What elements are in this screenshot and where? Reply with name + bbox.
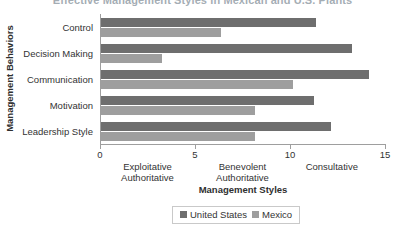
plot-area (100, 14, 386, 144)
bar (101, 122, 331, 131)
legend-label: Mexico (262, 209, 292, 220)
legend-item: Mexico (252, 209, 292, 220)
x-axis-tick-label: 5 (192, 149, 197, 160)
y-axis-label: Control (14, 14, 97, 40)
y-axis-label: Communication (14, 66, 97, 92)
x-axis-tick-label: 0 (97, 149, 102, 160)
x-axis-style-label-line1: Exploitative (121, 161, 174, 172)
x-axis-tick-label: 15 (380, 149, 391, 160)
y-axis-label: Decision Making (14, 40, 97, 66)
bar-group (101, 14, 386, 40)
bar (101, 70, 369, 79)
bar-group (101, 92, 386, 118)
x-axis-style-label-line2: Authoritative (216, 172, 269, 183)
bar (101, 18, 316, 27)
x-axis-style-label: ExploitativeAuthoritative (121, 161, 174, 183)
y-axis-category-labels: ControlDecision MakingCommunicationMotiv… (14, 14, 97, 144)
y-axis-title-text: Management Behaviors (4, 25, 15, 132)
bar (101, 106, 255, 115)
x-axis-line (100, 144, 386, 145)
legend-swatch-icon (252, 211, 259, 218)
bar (101, 54, 162, 63)
chart-title: Effective Management Styles in Mexican a… (0, 0, 405, 6)
bar-group (101, 66, 386, 92)
legend-item: United States (180, 209, 247, 220)
x-axis-style-label: Consultative (306, 161, 358, 172)
bar-group (101, 118, 386, 144)
legend-label: United States (190, 209, 247, 220)
bar (101, 96, 314, 105)
x-axis-style-label-line2: Authoritative (121, 172, 174, 183)
x-axis-style-label: BenevolentAuthoritative (216, 161, 269, 183)
legend-swatch-icon (180, 211, 187, 218)
y-axis-label: Motivation (14, 92, 97, 118)
x-axis-style-label-line1: Consultative (306, 161, 358, 172)
x-axis-style-label-line1: Benevolent (216, 161, 269, 172)
x-axis-title: Management Styles (100, 184, 386, 195)
bar (101, 80, 293, 89)
bar (101, 44, 352, 53)
y-axis-label: Leadership Style (14, 118, 97, 144)
bar (101, 28, 221, 37)
bar-group (101, 40, 386, 66)
x-axis-tick-label: 10 (285, 149, 296, 160)
bar (101, 132, 255, 141)
legend: United StatesMexico (172, 206, 300, 224)
